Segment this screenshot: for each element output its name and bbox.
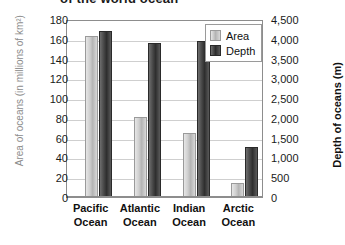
y-axis-left-tick-label: 180: [50, 15, 68, 26]
y-axis-left-tick-label: 40: [56, 153, 68, 164]
y-axis-right-tick-label: 2,000: [271, 114, 299, 125]
bar-area[interactable]: [183, 133, 196, 197]
y-axis-right-tick-label: 0: [271, 193, 277, 204]
bar-depth[interactable]: [197, 41, 210, 197]
y-axis-right-tick-label: 2,500: [271, 94, 299, 105]
y-axis-left-tick-label: 100: [50, 94, 68, 105]
y-axis-left-tick-label: 20: [56, 173, 68, 184]
bar-depth[interactable]: [99, 31, 112, 197]
x-axis-category-label: PacificOcean: [66, 202, 115, 242]
legend-label: Area: [226, 30, 249, 42]
y-axis-left-tick-label: 160: [50, 35, 68, 46]
x-axis-category-labels: PacificOceanAtlanticOceanIndianOceanArct…: [66, 202, 263, 242]
y-axis-right-tick-label: 1,000: [271, 153, 299, 164]
y-axis-left-tick-label: 120: [50, 74, 68, 85]
bar-group: [67, 21, 116, 197]
y-axis-right-tick-label: 4,000: [271, 35, 299, 46]
bar-depth[interactable]: [245, 147, 258, 197]
x-axis-category-label: AtlanticOcean: [115, 202, 164, 242]
legend-item-area[interactable]: Area: [210, 28, 255, 43]
legend-item-depth[interactable]: Depth: [210, 43, 255, 58]
bar-group: [116, 21, 165, 197]
y-axis-right-title: Depth of oceans (m): [331, 45, 345, 185]
y-axis-right-tick-label: 3,500: [271, 55, 299, 66]
y-axis-right-tick-label: 3,000: [271, 74, 299, 85]
legend-swatch-area-icon: [210, 30, 221, 41]
y-axis-right-tick-label: 1,500: [271, 134, 299, 145]
y-axis-left-title: Area of oceans (in millions of km²): [14, 46, 27, 166]
chart-title: of the world ocean: [60, 0, 178, 6]
y-axis-left-tick-label: 60: [56, 134, 68, 145]
chart-legend: AreaDepth: [205, 24, 262, 62]
legend-label: Depth: [226, 45, 255, 57]
y-axis-right-tick-label: 4,500: [271, 15, 299, 26]
x-axis-category-label: IndianOcean: [165, 202, 214, 242]
bar-area[interactable]: [85, 36, 98, 197]
bar-depth[interactable]: [148, 43, 161, 197]
x-axis-category-label: ArcticOcean: [214, 202, 263, 242]
y-axis-right-tick-label: 500: [271, 173, 289, 184]
x-axis-line: [67, 196, 262, 197]
y-axis-left-tick-label: 140: [50, 55, 68, 66]
legend-swatch-depth-icon: [210, 45, 221, 56]
y-axis-left-tick-label: 80: [56, 114, 68, 125]
bar-area[interactable]: [134, 117, 147, 197]
bar-area[interactable]: [231, 183, 244, 197]
